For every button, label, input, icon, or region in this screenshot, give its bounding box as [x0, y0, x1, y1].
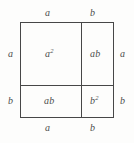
square-expansion-diagram: a b a b a b a b a2 ab ab b2	[0, 0, 134, 143]
cell-label-ab-bottom-left: ab	[44, 96, 54, 106]
edge-label-right-b: b	[120, 96, 125, 106]
vertical-divider-line	[81, 22, 82, 118]
edge-label-left-a: a	[8, 49, 13, 59]
cell-label-a-squared-exponent: 2	[50, 47, 53, 54]
edge-label-left-b: b	[8, 96, 13, 106]
edge-label-bottom-b: b	[90, 123, 95, 133]
cell-label-ab-top-right: ab	[90, 49, 100, 59]
cell-label-a-squared: a2	[45, 49, 54, 59]
outer-square-border	[20, 22, 114, 118]
cell-label-b-squared-exponent: 2	[95, 94, 98, 101]
edge-label-top-a: a	[45, 8, 50, 18]
horizontal-divider-line	[20, 85, 114, 86]
edge-label-top-b: b	[90, 8, 95, 18]
edge-label-right-a: a	[120, 49, 125, 59]
edge-label-bottom-a: a	[45, 123, 50, 133]
cell-label-b-squared: b2	[90, 96, 99, 106]
